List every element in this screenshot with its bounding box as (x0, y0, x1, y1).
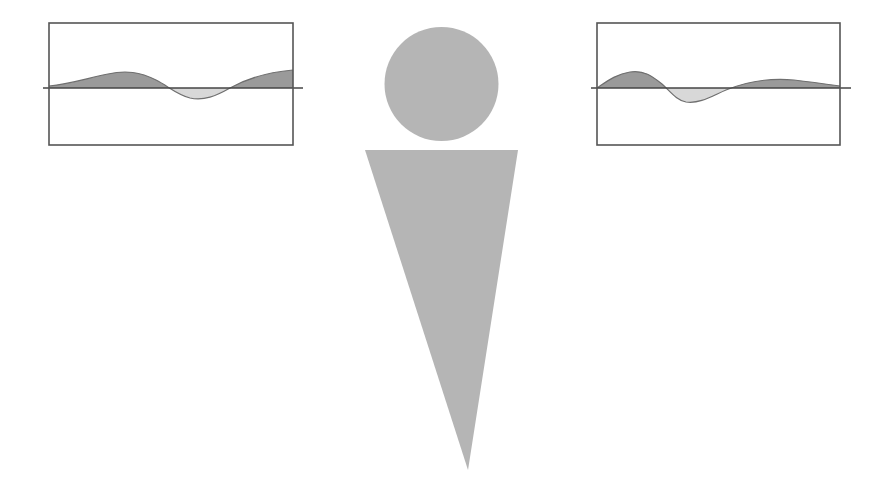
figure-canvas (0, 0, 883, 496)
head-circle (385, 27, 499, 141)
figure-root: Stylized antenna figure flanked by two w… (0, 0, 883, 496)
